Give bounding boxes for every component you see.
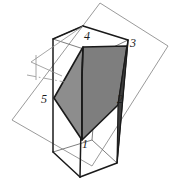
prism-plane-diagram — [0, 0, 177, 182]
construction-cross-line-a — [31, 26, 83, 62]
vertex-label-1: 1 — [82, 138, 88, 150]
cut-face-left-panel — [54, 47, 83, 140]
vertex-label-4: 4 — [84, 30, 90, 42]
vertex-label-2: 2 — [117, 93, 123, 105]
figure-canvas: 1 2 3 4 5 — [0, 0, 177, 182]
cut-upper-fold-line — [82, 47, 83, 78]
prism-top-front-left-edge — [53, 26, 83, 39]
construction-dashdot-line — [27, 75, 70, 83]
vertex-label-5: 5 — [41, 93, 47, 105]
vertex-label-3: 3 — [130, 37, 136, 49]
prism-bottom-front-left-edge — [53, 152, 80, 177]
prism-bottom-front-right-edge — [80, 163, 117, 177]
